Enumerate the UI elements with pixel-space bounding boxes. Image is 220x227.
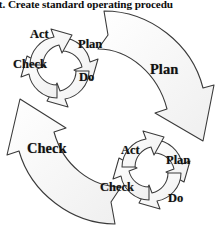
outer-check-arrow — [7, 99, 121, 224]
figure-container: ct. Create standard operating procedu — [0, 0, 220, 227]
inner1-label-do: Do — [79, 70, 94, 85]
inner2-label-check: Check — [100, 180, 134, 195]
inner2-label-plan: Plan — [166, 153, 190, 168]
inner1-label-check: Check — [13, 57, 47, 72]
outer-label-check: Check — [27, 140, 66, 157]
inner1-label-act: Act — [30, 27, 49, 42]
inner2-label-do: Do — [168, 191, 183, 206]
outer-label-plan: Plan — [150, 61, 178, 78]
inner2-label-act: Act — [121, 143, 140, 158]
inner1-label-plan: Plan — [78, 37, 102, 52]
